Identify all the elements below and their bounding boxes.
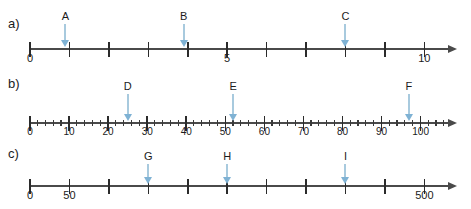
tick-b xyxy=(154,120,155,126)
row-label-a: a) xyxy=(8,16,20,31)
tick-a xyxy=(305,42,307,57)
number-line-b: b) 0102030405060708090100DEF xyxy=(0,70,471,140)
axis-arrowhead-a xyxy=(448,45,457,53)
tick-label-b-50: 50 xyxy=(220,126,231,137)
tick-label-a-0: 0 xyxy=(27,52,33,64)
tick-b xyxy=(287,120,288,126)
tick-b xyxy=(326,120,327,126)
tick-b xyxy=(279,120,280,126)
tick-b xyxy=(209,120,210,126)
tick-b xyxy=(350,120,351,126)
tick-c xyxy=(305,179,307,194)
tick-b xyxy=(373,120,374,126)
tick-b xyxy=(443,120,444,126)
marker-arrowhead-G xyxy=(144,177,152,184)
marker-arrowhead-E xyxy=(229,114,237,121)
tick-label-b-100: 100 xyxy=(412,126,429,137)
marker-G: G xyxy=(138,150,158,185)
marker-arrowhead-D xyxy=(124,114,132,121)
tick-b xyxy=(334,120,335,126)
marker-shaft-D xyxy=(127,94,129,116)
tick-b xyxy=(139,120,140,126)
tick-label-b-10: 10 xyxy=(64,126,75,137)
marker-shaft-E xyxy=(232,94,234,116)
marker-D: D xyxy=(118,80,138,122)
tick-label-b-80: 80 xyxy=(337,126,348,137)
marker-label-E: E xyxy=(229,80,236,92)
tick-b xyxy=(248,120,249,126)
tick-a xyxy=(266,42,268,57)
tick-a xyxy=(384,42,386,57)
tick-b xyxy=(115,120,116,126)
row-label-b: b) xyxy=(8,76,20,91)
marker-label-D: D xyxy=(124,80,132,92)
tick-c xyxy=(384,179,386,194)
tick-b xyxy=(357,120,358,126)
tick-b xyxy=(217,120,218,126)
marker-arrowhead-I xyxy=(341,177,349,184)
tick-b xyxy=(271,120,272,126)
axis-arrowhead-c xyxy=(448,182,457,190)
marker-arrowhead-A xyxy=(61,40,69,47)
marker-label-G: G xyxy=(144,150,153,162)
tick-b xyxy=(389,120,390,126)
tick-label-b-40: 40 xyxy=(181,126,192,137)
marker-A: A xyxy=(55,10,75,48)
tick-label-a-5: 5 xyxy=(224,52,230,64)
tick-b xyxy=(100,120,101,126)
tick-label-b-0: 0 xyxy=(27,126,33,137)
marker-label-B: B xyxy=(180,10,187,22)
tick-b xyxy=(201,120,202,126)
tick-c xyxy=(108,179,110,194)
tick-label-b-20: 20 xyxy=(103,126,114,137)
marker-arrowhead-F xyxy=(405,114,413,121)
marker-I: I xyxy=(335,150,355,185)
tick-label-c-50: 50 xyxy=(63,189,75,201)
tick-b xyxy=(193,120,194,126)
tick-b xyxy=(45,120,46,126)
tick-label-b-30: 30 xyxy=(142,126,153,137)
tick-label-b-60: 60 xyxy=(259,126,270,137)
tick-b xyxy=(295,120,296,126)
number-line-c: c) 050500GHI xyxy=(0,140,471,209)
tick-b xyxy=(92,120,93,126)
marker-B: B xyxy=(174,10,194,48)
tick-label-a-10: 10 xyxy=(418,52,430,64)
tick-b xyxy=(256,120,257,126)
tick-b xyxy=(435,120,436,126)
tick-b xyxy=(170,120,171,126)
marker-C: C xyxy=(335,10,355,48)
tick-b xyxy=(162,120,163,126)
tick-label-c-500: 500 xyxy=(415,189,433,201)
marker-label-H: H xyxy=(223,150,231,162)
marker-shaft-F xyxy=(408,94,410,116)
marker-F: F xyxy=(399,80,419,122)
marker-label-A: A xyxy=(62,10,69,22)
marker-H: H xyxy=(217,150,237,185)
tick-a xyxy=(108,42,110,57)
tick-b xyxy=(365,120,366,126)
tick-b xyxy=(60,120,61,126)
tick-b xyxy=(84,120,85,126)
axis-arrowhead-b xyxy=(448,119,457,127)
tick-a xyxy=(148,42,150,57)
tick-label-b-70: 70 xyxy=(298,126,309,137)
tick-b xyxy=(310,120,311,126)
tick-b xyxy=(318,120,319,126)
marker-arrowhead-B xyxy=(180,40,188,47)
tick-c xyxy=(266,179,268,194)
marker-label-I: I xyxy=(344,150,347,162)
number-line-a: a) 0510ABC xyxy=(0,0,471,70)
tick-c xyxy=(187,179,189,194)
tick-b xyxy=(37,120,38,126)
marker-label-F: F xyxy=(406,80,413,92)
tick-b xyxy=(53,120,54,126)
tick-label-c-0: 0 xyxy=(27,189,33,201)
marker-arrowhead-H xyxy=(223,177,231,184)
marker-arrowhead-C xyxy=(341,40,349,47)
tick-label-b-90: 90 xyxy=(376,126,387,137)
worksheet-number-lines: a) 0510ABC b) 0102030405060708090100DEF … xyxy=(0,0,471,209)
marker-E: E xyxy=(223,80,243,122)
tick-b xyxy=(396,120,397,126)
tick-b xyxy=(178,120,179,126)
